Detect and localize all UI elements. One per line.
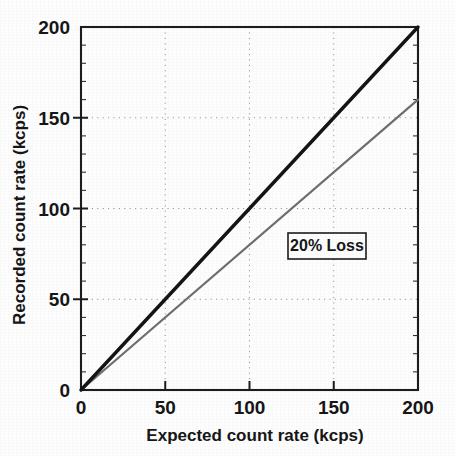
xtick-label-50: 50 [155,397,176,418]
ytick-label-100: 100 [38,199,70,220]
xtick-label-200: 200 [402,397,434,418]
xtick-label-100: 100 [234,397,266,418]
xtick-label-150: 150 [318,397,350,418]
ytick-label-150: 150 [38,108,70,129]
annotation-label: 20% Loss [290,237,364,254]
figure-page: 20% Loss 0 50 100 150 200 0 50 100 150 2… [0,0,456,456]
xtick-label-0: 0 [76,397,87,418]
ytick-label-200: 200 [38,17,70,38]
annotation-20-percent-loss: 20% Loss [288,233,366,259]
count-rate-linearity-chart: 20% Loss 0 50 100 150 200 0 50 100 150 2… [0,0,456,456]
ytick-label-0: 0 [59,380,70,401]
x-axis-title: Expected count rate (kcps) [146,426,363,445]
ytick-label-50: 50 [49,289,70,310]
y-axis-title: Recorded count rate (kcps) [10,105,29,325]
